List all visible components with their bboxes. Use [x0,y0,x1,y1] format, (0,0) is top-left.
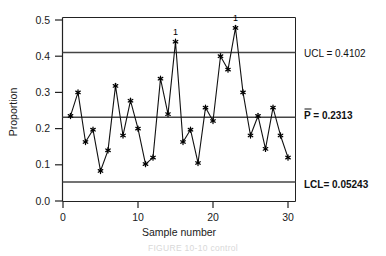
pbar-value: = 0.2313 [311,110,353,121]
y-tick-label: 0.0 [35,195,50,207]
x-tick-label: 30 [282,211,294,223]
x-tick-label: 0 [60,211,66,223]
y-tick-label: 0.2 [35,122,50,134]
y-tick-label: 0.1 [35,158,50,170]
y-tick-label: 0.5 [35,14,50,26]
x-tick-label: 20 [207,211,219,223]
y-tick-label: 0.3 [35,86,50,98]
x-axis-title: Sample number [142,226,217,238]
violation-label: 1 [233,13,238,23]
violation-label: 1 [173,27,178,37]
y-axis-title: Proportion [7,88,19,137]
ucl-label: UCL = 0.4102 [304,48,366,59]
lcl-label: LCL= 0.05243 [304,179,369,190]
svg-text:P = 0.2313: P = 0.2313 [304,110,353,121]
x-tick-label: 10 [132,211,144,223]
center-line-label: P = 0.2313 [304,109,353,121]
figure-caption: FIGURE 10-10 control [0,243,386,253]
control-chart-svg: 0.00.10.20.30.40.5 0102030 11 Proportion… [0,0,386,256]
y-tick-label: 0.4 [35,50,50,62]
control-chart: 0.00.10.20.30.40.5 0102030 11 Proportion… [0,0,386,256]
